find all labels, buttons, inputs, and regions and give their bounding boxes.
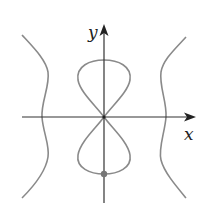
y-axis-label: y <box>87 22 98 42</box>
x-axis-label: x <box>184 124 194 144</box>
marked-point <box>101 171 107 177</box>
curve-diagram: y x <box>0 0 212 211</box>
origin-point <box>102 115 105 118</box>
